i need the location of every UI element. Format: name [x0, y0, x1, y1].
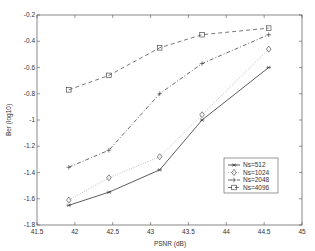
x-tick-label: 43	[147, 228, 155, 235]
y-tick-label: -0.2	[24, 11, 36, 18]
x-tick-label: 42.5	[106, 228, 119, 235]
x-tick-label: 43.5	[182, 228, 195, 235]
plot-area	[37, 15, 302, 225]
x-tick-label: 44.5	[258, 228, 271, 235]
x-tick-label: 42	[71, 228, 79, 235]
legend-label: Ns=1024	[243, 169, 270, 176]
x-tick-label: 44	[223, 228, 231, 235]
y-tick-label: -1.2	[24, 142, 36, 149]
y-tick-label: -0.8	[24, 90, 36, 97]
line-chart: 41.54242.54343.54444.545 -0.2-0.4-0.6-0.…	[0, 0, 315, 251]
x-tick-label: 41.5	[31, 228, 44, 235]
y-tick-label: -0.6	[24, 64, 36, 71]
y-tick-label: -1.6	[24, 195, 36, 202]
x-axis-label: PSNR (dB)	[154, 240, 186, 248]
x-tick-label: 45	[298, 228, 306, 235]
y-tick-label: -1	[29, 116, 35, 123]
y-axis-label: Ber (log10)	[5, 104, 13, 136]
legend-label: Ns=2048	[243, 176, 270, 183]
legend-label: Ns=512	[243, 161, 266, 168]
legend-label: Ns=4096	[243, 184, 270, 191]
y-tick-label: -1.4	[24, 169, 36, 176]
y-tick-label: -1.8	[24, 221, 36, 228]
y-tick-label: -0.4	[24, 37, 36, 44]
legend: Ns=512Ns=1024Ns=2048Ns=4096	[224, 158, 278, 193]
